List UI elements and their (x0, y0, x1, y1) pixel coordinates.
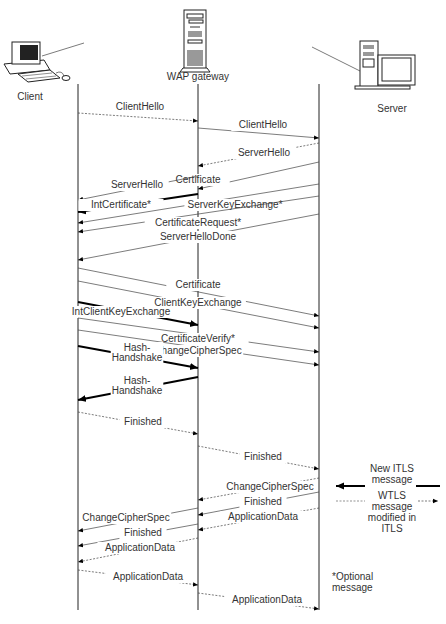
message-arrows: ClientHelloClientHelloServerHelloCertifi… (65, 101, 319, 609)
message-label: ClientHello (116, 101, 165, 112)
message-2: ServerHello (198, 143, 319, 166)
message-label: IntClientKeyExchange (72, 306, 171, 317)
message-label: ApplicationData (105, 542, 175, 553)
message-label: Finished (124, 527, 162, 538)
message-label: Finished (124, 416, 162, 427)
client-computer-icon (4, 42, 84, 82)
message-17: Finished (198, 446, 319, 469)
message-label: ApplicationData (113, 571, 183, 582)
message-label: IntCertificate* (91, 199, 151, 210)
message-label: CertificateRequest* (155, 217, 241, 228)
message-label: Finished (244, 496, 282, 507)
participant-label-gateway: WAP gateway (167, 71, 229, 82)
message-label: ServerHello (238, 147, 291, 158)
message-label: ChangeCipherSpec (82, 512, 169, 523)
legend-wtls-modified-label: WTLSmessagemodified inITLS (368, 490, 416, 534)
message-label: ChangeCipherSpec (226, 481, 313, 492)
server-computer-icon (312, 41, 415, 89)
legend-new-itls-label: New ITLSmessage (370, 463, 414, 485)
message-label: Finished (244, 451, 282, 462)
message-label: ClientHello (239, 119, 288, 130)
message-label: ServerHelloDone (160, 231, 237, 242)
message-3: Certificate (166, 162, 319, 189)
legend: New ITLSmessage WTLSmessagemodified inIT… (332, 463, 440, 593)
message-16: Finished (78, 412, 198, 434)
message-label: ChangeCipherSpec (154, 345, 241, 356)
message-15: Hash-Handshake (78, 375, 198, 400)
message-label: Certificate (175, 279, 220, 290)
message-1: ClientHello (198, 119, 319, 138)
message-23: ApplicationData (78, 538, 198, 562)
itls-handshake-sequence-diagram: Client WAP gateway Server ClientHelloCli… (0, 0, 446, 624)
message-label: ApplicationData (228, 511, 298, 522)
message-label: ApplicationData (232, 594, 302, 605)
wap-gateway-server-icon (180, 10, 210, 72)
message-label: ServerHello (111, 179, 164, 190)
message-label: CertificateVerify* (161, 333, 235, 344)
message-24: ApplicationData (78, 570, 198, 585)
message-arrow (78, 113, 198, 121)
participant-label-client: Client (17, 91, 43, 102)
participant-label-server: Server (377, 103, 407, 114)
message-25: ApplicationData (198, 593, 319, 609)
legend-optional-note: *Optionalmessage (332, 571, 373, 593)
message-0: ClientHello (78, 101, 198, 121)
message-label: Certificate (175, 174, 220, 185)
